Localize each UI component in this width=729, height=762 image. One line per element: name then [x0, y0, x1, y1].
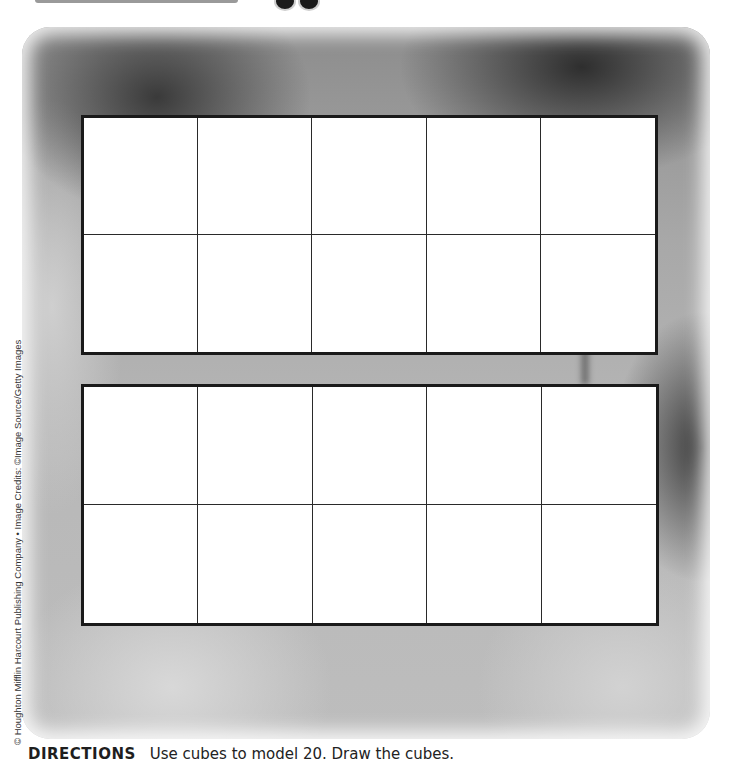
ten-frame-cell[interactable] [198, 505, 312, 623]
ten-frame-cell[interactable] [427, 118, 541, 235]
ten-frame-cell[interactable] [84, 505, 198, 623]
ten-frame-cell[interactable] [198, 387, 312, 505]
ten-frame-cell[interactable] [313, 505, 427, 623]
ten-frame-cell[interactable] [198, 118, 312, 235]
left-eye-icon [274, 0, 296, 11]
ten-frame-cell[interactable] [84, 118, 198, 235]
directions: DIRECTIONSUse cubes to model 20. Draw th… [28, 745, 454, 762]
directions-label: DIRECTIONS [28, 745, 136, 762]
header-bar-fragment [35, 0, 238, 3]
ten-frame-cell[interactable] [312, 118, 426, 235]
ten-frame-cell[interactable] [198, 235, 312, 352]
ten-frame-cell[interactable] [542, 505, 656, 623]
ten-frame-cell[interactable] [84, 387, 198, 505]
ten-frame-cell[interactable] [541, 118, 655, 235]
right-eye-icon [298, 0, 320, 11]
ten-frame-cell[interactable] [542, 387, 656, 505]
ten-frame-cell[interactable] [84, 235, 198, 352]
copyright-credit: © Houghton Mifflin Harcourt Publishing C… [12, 385, 23, 745]
ten-frame-bottom [81, 384, 659, 626]
directions-text: Use cubes to model 20. Draw the cubes. [150, 745, 454, 762]
ten-frame-cell[interactable] [312, 235, 426, 352]
ten-frame-cell[interactable] [427, 235, 541, 352]
ten-frame-cell[interactable] [427, 505, 541, 623]
ten-frame-cell[interactable] [313, 387, 427, 505]
ten-frame-cell[interactable] [541, 235, 655, 352]
ten-frame-top [81, 115, 658, 355]
mascot-eyes-icon [274, 0, 322, 8]
ten-frame-cell[interactable] [427, 387, 541, 505]
